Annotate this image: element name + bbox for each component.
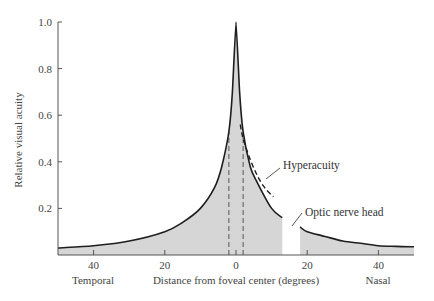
acuity-chart: 0.20.40.60.81.0 402002040 Relative visua…	[0, 0, 434, 301]
acuity-fill-0	[58, 22, 282, 255]
x-side-label-temporal: Temporal	[72, 274, 114, 286]
x-tick-label: 20	[302, 259, 314, 271]
y-tick-label: 0.4	[38, 156, 52, 168]
y-tick-label: 0.8	[38, 63, 52, 75]
x-axis-title: Distance from foveal center (degrees)	[153, 274, 319, 287]
y-tick-label: 0.2	[38, 202, 52, 214]
x-tick-label: 20	[159, 259, 171, 271]
y-tick-label: 1.0	[38, 16, 52, 28]
y-axis-title: Relative visual acuity	[12, 92, 24, 188]
y-tick-label: 0.6	[38, 109, 52, 121]
x-tick-label: 0	[233, 259, 239, 271]
optic-nerve-leader-line	[292, 213, 302, 226]
x-tick-label: 40	[373, 259, 385, 271]
optic-nerve-head-label: Optic nerve head	[305, 206, 384, 219]
acuity-fill-areas	[58, 22, 414, 255]
hyperacuity-label: Hyperacuity	[283, 159, 340, 172]
x-side-label-nasal: Nasal	[365, 274, 390, 286]
hyperacuity-leader-line	[266, 168, 280, 179]
x-tick-label: 40	[88, 259, 100, 271]
acuity-fill-1	[300, 227, 414, 255]
